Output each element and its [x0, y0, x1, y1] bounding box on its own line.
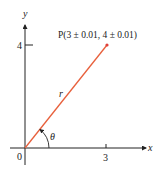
y-tick-label: 4: [17, 40, 22, 51]
theta-arc: [40, 130, 49, 149]
x-axis-label: x: [147, 142, 153, 153]
point-label: P(3 ± 0.01, 4 ± 0.01): [58, 30, 137, 41]
polar-diagram: y x 0 3 4 P(3 ± 0.01, 4 ± 0.01) r θ: [0, 0, 165, 170]
x-tick-label: 3: [103, 152, 108, 163]
segment-r: [25, 45, 107, 148]
angle-label: θ: [50, 131, 55, 142]
point-p: [105, 43, 108, 46]
segment-label: r: [59, 88, 63, 99]
y-axis-label: y: [22, 8, 28, 19]
origin-label: 0: [17, 151, 22, 162]
